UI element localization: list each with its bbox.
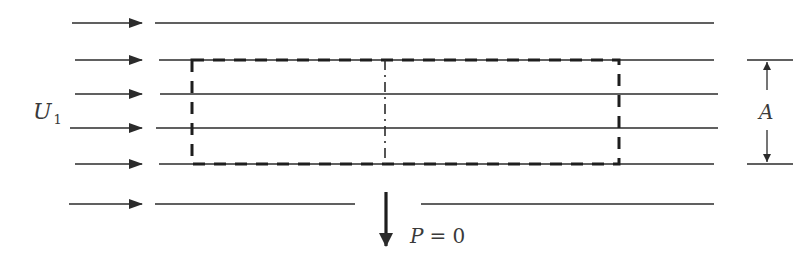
streamlines (69, 23, 718, 204)
area-label: A (757, 100, 773, 124)
control-volume-diagram: U1 A P= 0 (0, 0, 809, 259)
velocity-subscript: 1 (54, 112, 62, 127)
velocity-symbol: U (33, 99, 53, 124)
power-value: = 0 (429, 224, 465, 248)
control-volume-boundary (192, 60, 619, 164)
power-label: P= 0 (409, 224, 465, 248)
power-symbol: P (409, 224, 424, 248)
inflow-velocity-label: U1 (33, 99, 62, 127)
